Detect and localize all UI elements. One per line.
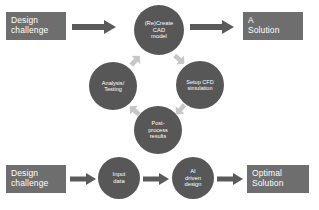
arrow-input-data-to-ai-driven-design xyxy=(143,172,169,186)
arrow-shaft xyxy=(217,177,233,182)
bottom-end-box-optimal-solution: Optimal Solution xyxy=(247,165,309,193)
arrow-head xyxy=(86,173,96,185)
cycle-node-setup-cfd-simulation: Setup CFD simulation xyxy=(176,61,224,109)
arrow-head xyxy=(159,173,169,185)
arrow-shaft xyxy=(70,177,86,182)
arrow-head xyxy=(104,20,116,34)
bottom-node-ai-driven-design: AI driven design xyxy=(172,157,214,199)
arrow-shaft xyxy=(190,24,222,30)
top-end-box-a-solution: A Solution xyxy=(243,12,303,40)
top-start-box-design-challenge: Design challenge xyxy=(6,12,66,40)
arrow-design-challenge-to-cad-model xyxy=(72,20,116,34)
cycle-arrow-analysis-to-cad-icon xyxy=(126,51,144,69)
bottom-start-box-design-challenge: Design challenge xyxy=(6,165,66,193)
arrow-head xyxy=(222,20,234,34)
cycle-node-post-process-results: Post- process results xyxy=(134,106,182,154)
arrow-ai-driven-design-to-optimal-solution xyxy=(217,172,243,186)
arrow-head xyxy=(233,173,243,185)
cycle-node-recreate-cad-model: (Re)Create CAD model xyxy=(134,5,184,55)
cycle-node-analysis-testing: Analysis/ Testing xyxy=(89,62,137,110)
arrow-design-challenge-to-input-data xyxy=(70,172,96,186)
arrow-cad-model-to-a-solution xyxy=(190,20,234,34)
arrow-shaft xyxy=(143,177,159,182)
diagram-canvas: Design challenge (Re)Create CAD model A … xyxy=(0,0,319,210)
bottom-node-input-data: Input data xyxy=(98,157,140,199)
arrow-shaft xyxy=(72,24,104,30)
